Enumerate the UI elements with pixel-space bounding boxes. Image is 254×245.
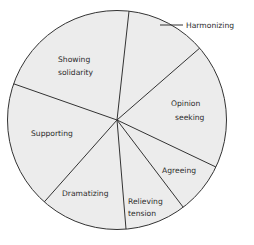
label-showing-solidarity-2: solidarity bbox=[58, 68, 94, 77]
label-harmonizing: Harmonizing bbox=[186, 21, 234, 30]
label-relieving-tension-2: tension bbox=[128, 209, 156, 218]
pie-chart: Harmonizing Showing solidarity Opinion s… bbox=[0, 0, 254, 245]
label-agreeing: Agreeing bbox=[162, 166, 196, 175]
label-showing-solidarity-1: Showing bbox=[58, 55, 90, 64]
label-supporting: Supporting bbox=[31, 129, 73, 138]
label-relieving-tension-1: Relieving bbox=[128, 197, 163, 206]
label-opinion-seeking-1: Opinion bbox=[171, 99, 200, 108]
label-dramatizing: Dramatizing bbox=[62, 189, 109, 198]
label-opinion-seeking-2: seeking bbox=[175, 113, 205, 122]
